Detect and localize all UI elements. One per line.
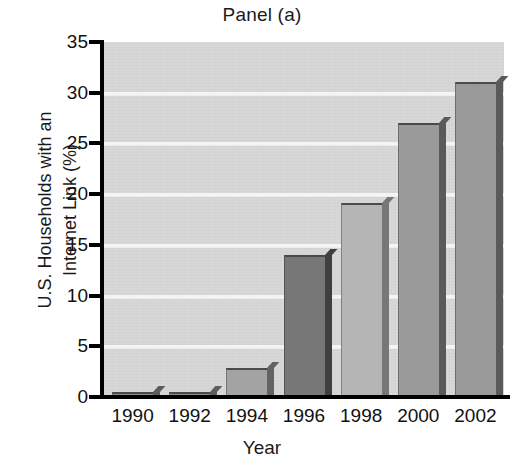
bar-top (210, 386, 222, 392)
bar-1996[interactable] (284, 255, 325, 397)
gridline-30 (104, 92, 504, 95)
bar-2000[interactable] (398, 123, 439, 397)
x-tick-label-2002: 2002 (445, 404, 505, 428)
bar-top (325, 249, 337, 255)
x-tick-label-1990: 1990 (103, 404, 163, 428)
y-tick-labels: 05101520253035 (44, 0, 88, 474)
y-tick-label-30: 30 (52, 83, 88, 102)
y-tick-label-5: 5 (52, 336, 88, 355)
bar-top (267, 362, 279, 368)
bar-top (382, 197, 394, 203)
y-tick-mark-25 (89, 141, 104, 145)
x-tick-labels: 1990199219941996199820002002 (104, 404, 504, 434)
y-tick-mark-20 (89, 192, 104, 196)
bar-1994[interactable] (226, 368, 267, 397)
bar-face (226, 368, 267, 397)
bar-top (496, 76, 508, 82)
chart-figure: Panel (a) U.S. Households with an Intern… (0, 0, 524, 474)
bar-face (455, 82, 496, 397)
x-tick-label-2000: 2000 (388, 404, 448, 428)
x-tick-label-1994: 1994 (217, 404, 277, 428)
x-tick-label-1996: 1996 (274, 404, 334, 428)
bar-face (284, 255, 325, 397)
y-tick-mark-10 (89, 294, 104, 298)
bar-top (153, 386, 165, 392)
plot-area (104, 42, 504, 397)
y-tick-label-15: 15 (52, 235, 88, 254)
x-axis-line (100, 395, 510, 399)
y-tick-label-10: 10 (52, 286, 88, 305)
bar-2002[interactable] (455, 82, 496, 397)
y-tick-mark-30 (89, 91, 104, 95)
y-tick-label-25: 25 (52, 133, 88, 152)
y-tick-mark-5 (89, 344, 104, 348)
bar-side (325, 255, 332, 397)
bar-side (267, 368, 274, 397)
x-tick-label-1998: 1998 (331, 404, 391, 428)
bar-side (439, 123, 446, 397)
bar-1998[interactable] (341, 203, 382, 397)
y-tick-mark-0 (89, 395, 104, 399)
x-tick-label-1992: 1992 (160, 404, 220, 428)
x-axis-label: Year (0, 437, 524, 459)
bar-top (439, 117, 451, 123)
bar-face (398, 123, 439, 397)
bar-side (382, 203, 389, 397)
y-tick-mark-15 (89, 243, 104, 247)
y-tick-label-20: 20 (52, 184, 88, 203)
y-tick-label-0: 0 (52, 387, 88, 406)
bar-face (341, 203, 382, 397)
y-tick-label-35: 35 (52, 32, 88, 51)
y-tick-mark-35 (89, 40, 104, 44)
bar-side (496, 82, 503, 397)
